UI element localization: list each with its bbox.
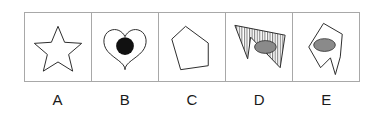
option-cell-e[interactable] [293, 13, 359, 81]
option-label-c: C [158, 86, 225, 114]
option-label-e: E [293, 86, 360, 114]
shape-puzzle: A B C D E [0, 0, 383, 125]
irregular-pentagon-icon [159, 13, 225, 81]
notched-polygon-icon [293, 13, 359, 81]
options-grid [24, 12, 360, 82]
option-cell-a[interactable] [25, 13, 92, 81]
heart-with-circle-icon [92, 13, 158, 81]
five-pointed-star-icon [25, 13, 91, 81]
option-cell-d[interactable] [226, 13, 293, 81]
option-label-d: D [226, 86, 293, 114]
option-cell-c[interactable] [159, 13, 226, 81]
option-label-a: A [24, 86, 91, 114]
option-labels-row: A B C D E [24, 86, 360, 114]
option-label-b: B [91, 86, 158, 114]
option-cell-b[interactable] [92, 13, 159, 81]
hatched-zigzag-polygon-icon [226, 13, 292, 81]
